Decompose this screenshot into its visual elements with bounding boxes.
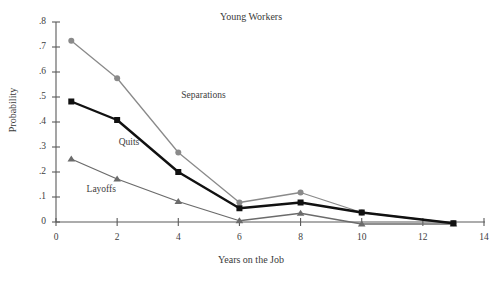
- data-point-marker: [67, 155, 75, 161]
- data-point-marker: [297, 210, 305, 216]
- series-label-separations: Separations: [181, 91, 225, 101]
- y-axis-tick-label: .6: [24, 67, 46, 77]
- chart-container: Young Workers Probability Years on the J…: [0, 0, 502, 285]
- data-point-marker: [298, 200, 304, 206]
- y-axis-tick-label: .4: [24, 117, 46, 127]
- x-axis-tick-label: 8: [289, 233, 313, 243]
- data-point-marker: [450, 220, 456, 226]
- y-axis-tick-label: .7: [24, 42, 46, 52]
- series-label-quits: Quits: [119, 138, 140, 148]
- x-axis-tick-label: 12: [411, 233, 435, 243]
- x-axis-tick-label: 0: [44, 233, 68, 243]
- y-axis-tick-label: .8: [24, 17, 46, 27]
- data-point-marker: [114, 117, 120, 123]
- x-axis-tick-label: 10: [350, 233, 374, 243]
- series-separations: [68, 38, 456, 227]
- y-axis-tick-label: .2: [24, 167, 46, 177]
- data-point-marker: [175, 169, 181, 175]
- x-axis-tick-label: 14: [472, 233, 496, 243]
- data-point-marker: [298, 190, 304, 196]
- series-line: [71, 102, 453, 224]
- series-line: [71, 41, 453, 224]
- y-axis-tick-label: .1: [24, 192, 46, 202]
- y-axis-tick-label: 0: [24, 217, 46, 227]
- data-point-marker: [359, 210, 365, 216]
- series-quits: [68, 99, 456, 227]
- data-point-marker: [236, 205, 242, 211]
- y-axis-tick-label: .5: [24, 92, 46, 102]
- y-axis-tick-label: .3: [24, 142, 46, 152]
- data-point-marker: [68, 38, 74, 44]
- series-label-layoffs: Layoffs: [87, 185, 116, 195]
- data-point-marker: [236, 200, 242, 206]
- x-axis-tick-label: 2: [105, 233, 129, 243]
- x-axis-tick-label: 4: [166, 233, 190, 243]
- data-point-marker: [175, 150, 181, 156]
- series-line: [71, 159, 453, 224]
- data-point-marker: [68, 99, 74, 105]
- data-point-marker: [114, 75, 120, 81]
- x-axis-tick-label: 6: [227, 233, 251, 243]
